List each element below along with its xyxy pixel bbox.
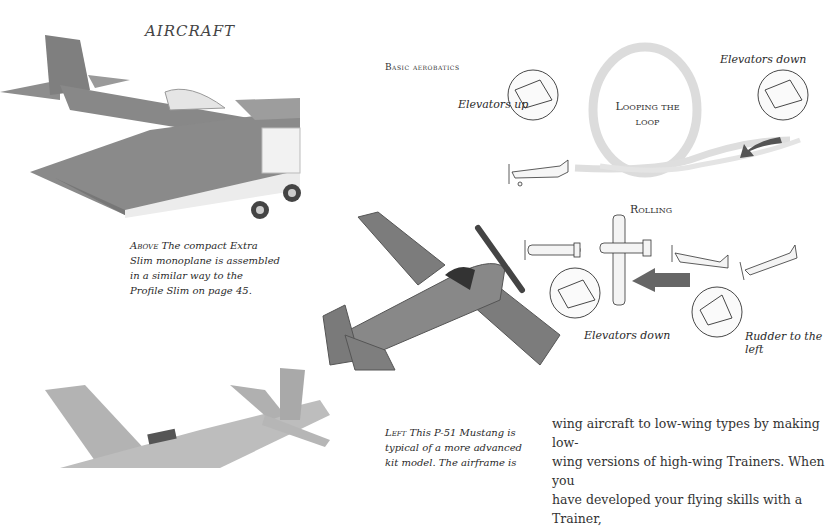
running-head: AIRCRAFT — [145, 22, 235, 40]
caption-left-lead: Left — [385, 427, 406, 438]
extra-slim-photo — [0, 35, 301, 219]
caption-above-line: Slim monoplane is assembled — [130, 253, 300, 268]
caption-above-line: in a similar way to the — [130, 268, 300, 283]
caption-above-line: Profile Slim on page 45. — [130, 283, 300, 298]
label-elevators-down-roll: Elevators down — [584, 329, 670, 342]
rolling-title: Rolling — [630, 203, 672, 216]
caption-left-line: kit model. The airframe is — [385, 455, 535, 470]
mustang-photo — [45, 368, 330, 468]
label-elevators-down-loop: Elevators down — [720, 53, 806, 66]
section-heading: Basic aerobatics — [385, 62, 460, 72]
loop-plane-icon — [509, 160, 568, 186]
caption-above: Above The compact Extra Slim monoplane i… — [130, 238, 300, 298]
loop-title-line1: Looping the — [610, 100, 685, 113]
caption-left: Left This P-51 Mustang is typical of a m… — [385, 425, 535, 470]
caption-left-line: typical of a more advanced — [385, 440, 535, 455]
kit-model-drawing — [323, 212, 560, 370]
loop-title-line2: loop — [610, 115, 685, 128]
label-rudder-left: Rudder to the left — [745, 330, 831, 356]
body-text: wing aircraft to low-wing types by makin… — [552, 414, 831, 528]
caption-above-lead: Above — [130, 240, 158, 251]
caption-above-line: The compact Extra — [161, 240, 257, 251]
caption-left-line: This P-51 Mustang is — [409, 427, 515, 438]
label-elevators-up: Elevators up — [458, 98, 528, 111]
roll-direction-arrow — [632, 268, 690, 292]
body-line: wing aircraft to low-wing types by makin… — [552, 414, 831, 452]
body-line: wing versions of high-wing Trainers. Whe… — [552, 452, 831, 490]
body-line: have developed your flying skills with a… — [552, 490, 831, 528]
